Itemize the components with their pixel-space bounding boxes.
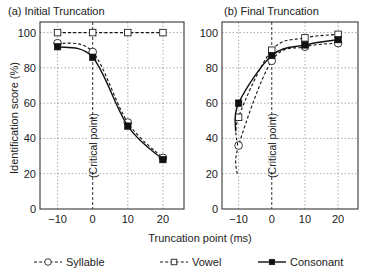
x-tick-label: 20 [157, 213, 169, 225]
y-tick-label: 20 [206, 168, 218, 180]
y-tick-label: 100 [18, 27, 36, 39]
y-tick-label: 0 [212, 203, 218, 215]
critical-point-annotation: (Critical point) [266, 113, 278, 178]
y-tick-label: 40 [206, 132, 218, 144]
y-tick-label: 80 [24, 62, 36, 74]
series-consonant [235, 36, 341, 131]
filled-square-marker [302, 42, 309, 49]
filled-square-marker [160, 156, 167, 163]
x-tick-label: 10 [299, 213, 311, 225]
y-axis-label: Identification score (%) [8, 62, 20, 174]
filled-square-marker [89, 54, 96, 61]
grid [40, 22, 184, 209]
critical-point-annotation: (Critical point) [87, 113, 99, 178]
filled-square-marker [269, 259, 275, 265]
open-square-marker [235, 114, 242, 121]
open-square-marker [89, 29, 96, 36]
open-circle-marker [45, 259, 52, 266]
plot-frame [222, 22, 358, 209]
y-tick-label: 20 [24, 168, 36, 180]
x-tick-label: −10 [48, 213, 67, 225]
open-square-marker [125, 29, 131, 36]
legend-label: Consonant [290, 256, 343, 268]
panel-initial-truncation: (a) Initial Truncation(Critical point)02… [8, 5, 184, 225]
panel-title: (b) Final Truncation [224, 5, 319, 17]
legend: SyllableVowelConsonant [34, 256, 343, 268]
filled-square-marker [125, 123, 131, 129]
x-tick-label: 20 [332, 213, 344, 225]
open-square-marker [302, 35, 309, 42]
y-tick-label: 40 [24, 132, 36, 144]
legend-item-syllable: Syllable [34, 256, 105, 268]
filled-square-marker [54, 43, 61, 50]
filled-square-marker [235, 100, 242, 107]
legend-item-vowel: Vowel [160, 256, 221, 268]
legend-label: Vowel [192, 256, 221, 268]
plot-frame [40, 22, 184, 209]
chart: (a) Initial Truncation(Critical point)02… [0, 0, 368, 274]
open-square-marker [54, 29, 61, 36]
x-tick-label: −10 [229, 213, 248, 225]
open-circle-marker [235, 142, 243, 150]
series-syllable [235, 39, 342, 173]
series-syllable [54, 39, 167, 161]
y-tick-label: 100 [200, 27, 218, 39]
x-axis-label: Truncation point (ms) [148, 232, 252, 244]
x-tick-label: 0 [269, 213, 275, 225]
legend-label: Syllable [66, 256, 105, 268]
filled-square-marker [269, 52, 276, 59]
panel-title: (a) Initial Truncation [8, 5, 105, 17]
panel-final-truncation: (b) Final Truncation(Critical point)0204… [200, 5, 358, 225]
y-tick-label: 60 [24, 97, 36, 109]
filled-square-marker [335, 36, 342, 43]
x-tick-label: 0 [90, 213, 96, 225]
grid [222, 22, 358, 209]
x-tick-label: 10 [122, 213, 134, 225]
open-square-marker [171, 259, 177, 265]
y-tick-label: 0 [30, 203, 36, 215]
y-tick-label: 60 [206, 97, 218, 109]
y-tick-label: 80 [206, 62, 218, 74]
legend-item-consonant: Consonant [258, 256, 343, 268]
open-square-marker [160, 29, 167, 36]
